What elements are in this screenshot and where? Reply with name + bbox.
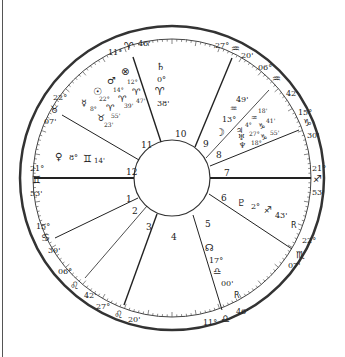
cusp-1-degree: 21° — [30, 164, 44, 173]
saturn-icon: ♄ — [156, 61, 165, 72]
cusp-1a-minutes: 30' — [48, 246, 60, 255]
sun-degree: 22° — [99, 95, 110, 102]
cusp-line-9 — [195, 58, 232, 147]
cusp-2-degree: 06° — [58, 267, 72, 276]
mercury-degree: 8° — [90, 105, 97, 112]
cusp-3-degree: 27° — [96, 302, 110, 311]
north-node-retrograde: R — [234, 291, 240, 300]
pluto-icon: ♇ — [237, 197, 246, 208]
jupiter-minutes: 18' — [258, 107, 268, 114]
cusp-line-2 — [55, 198, 138, 238]
cusp-7a-minutes: 30' — [307, 131, 319, 140]
moon-minutes: 49' — [236, 95, 248, 104]
venus-degree: 8° — [69, 153, 78, 162]
jupiter-sign-icon: ♒ — [251, 114, 257, 122]
house-number-6: 6 — [221, 193, 227, 203]
house-number-8: 8 — [216, 150, 222, 160]
uranus-sign-icon: ♑ — [258, 122, 265, 131]
cusp-line-4 — [124, 214, 157, 305]
cusp-9-sign-icon: ♒ — [231, 43, 240, 54]
cusp-10-sign-icon: ♈ — [124, 40, 134, 53]
cusp-6-minutes: 07' — [288, 261, 300, 270]
cusp-3-sign-icon: ♌ — [114, 309, 123, 320]
natal-chart-wheel: 1 2 3 4 5 6 7 8 9 10 11 12 11° ♈ 46' 27°… — [0, 0, 345, 357]
sun-minutes: 55' — [111, 112, 121, 119]
venus-minutes: 14' — [94, 157, 105, 165]
north-node-degree: 17° — [209, 256, 223, 265]
house-number-1: 1 — [126, 194, 132, 204]
cusp-2-minutes: 42' — [84, 291, 96, 300]
house-number-10: 10 — [175, 129, 187, 139]
pluto-retrograde: R — [291, 221, 297, 230]
cusp-1a-degree: 15° — [36, 222, 50, 231]
north-node-icon: ☊ — [205, 242, 214, 253]
north-node-minutes: 00' — [221, 279, 233, 288]
cusp-9-degree: 27° — [215, 41, 229, 50]
house-number-3: 3 — [146, 222, 152, 232]
moon-degree: 13° — [222, 115, 236, 124]
pluto-degree: 2° — [251, 202, 260, 211]
cusp-6-sign-icon: ♏ — [296, 249, 305, 260]
saturn-minutes: 38' — [157, 99, 169, 108]
moon-sign-icon: ♒ — [230, 104, 237, 113]
cusp-3-minutes: 20' — [128, 315, 140, 324]
cusp-8-degree: 06° — [258, 63, 272, 72]
house-number-12: 12 — [126, 167, 137, 177]
cusp-2-sign-icon: ♌ — [70, 280, 79, 291]
north-node-sign-icon: ♎ — [213, 266, 221, 276]
mars-icon: ♂ — [107, 75, 116, 86]
cusp-12-minutes: 07' — [44, 117, 56, 126]
pluto-minutes: 43' — [275, 211, 287, 220]
cusp-10-minutes: 46' — [138, 39, 150, 48]
part-of-fortune-minutes: 47' — [136, 97, 146, 104]
cusp-1-minutes: 53' — [30, 189, 42, 198]
jupiter-degree: 4° — [245, 121, 252, 128]
cusp-6-degree: 22° — [302, 236, 316, 245]
cusp-7-minutes: 53' — [312, 188, 324, 197]
cusp-4-minutes: 46' — [236, 307, 248, 316]
cusp-7a-sign-icon: ♑ — [303, 117, 312, 128]
mercury-icon: ☿ — [81, 98, 87, 108]
inner-circle — [134, 140, 210, 216]
neptune-sign-icon: ♑ — [260, 133, 267, 142]
cusp-9-minutes: 20' — [241, 51, 253, 60]
cusp-8-sign-icon: ♒ — [272, 73, 281, 84]
cusp-10-degree: 11° — [108, 48, 122, 57]
cusp-1-sign-icon: ♊ — [32, 174, 41, 185]
house-number-11: 11 — [141, 140, 152, 150]
pluto-sign-icon: ♐ — [264, 205, 272, 215]
part-of-fortune-degree: 12° — [127, 78, 138, 85]
cusp-7-sign-icon: ♐ — [313, 173, 322, 184]
cusp-12-degree: 22° — [53, 93, 67, 102]
uranus-minutes: 41' — [266, 117, 276, 124]
part-of-fortune-icon: ⊗ — [121, 66, 129, 77]
moon-icon: ☽ — [215, 126, 225, 139]
venus-sign-icon: ♊ — [83, 153, 92, 164]
saturn-sign-icon: ♈ — [155, 85, 165, 98]
cusp-8-minutes: 42' — [286, 89, 298, 98]
cusp-4-degree: 11° — [203, 318, 217, 327]
mars-degree: 14° — [113, 86, 124, 93]
mars-minutes: 39' — [124, 102, 134, 109]
cusp-7a-degree: 15° — [298, 108, 312, 117]
cusp-4-sign-icon: ♎ — [221, 313, 230, 324]
house-number-5: 5 — [205, 219, 211, 229]
neptune-minutes: 55' — [270, 129, 280, 136]
house-number-4: 4 — [171, 232, 177, 242]
part-of-fortune-sign-icon: ♈ — [132, 87, 141, 97]
cusp-1a-sign-icon: ♋ — [41, 232, 50, 243]
saturn-degree: 0° — [157, 75, 166, 84]
uranus-degree: 27° — [249, 130, 260, 137]
mercury-minutes: 23' — [104, 121, 114, 128]
house-number-2: 2 — [132, 206, 138, 216]
house-number-7: 7 — [224, 168, 230, 178]
venus-icon: ♀ — [55, 151, 62, 162]
cusp-12-sign-icon: ♉ — [50, 104, 59, 115]
cusp-7-degree: 21° — [312, 164, 326, 173]
neptune-icon: ♆ — [239, 141, 246, 150]
house-number-9: 9 — [203, 139, 209, 149]
